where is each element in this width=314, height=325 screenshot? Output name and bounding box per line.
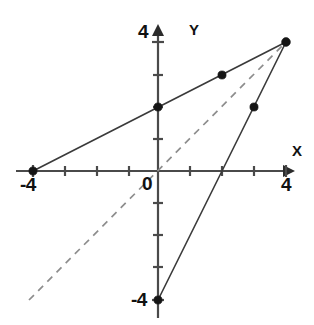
y-axis-max-tick-label: 4 [138,22,148,41]
y-axis-min-tick-label: -4 [131,290,147,309]
y-axis-arrow [152,24,164,36]
data-point-4-4 [282,38,291,47]
x-axis-max-tick-label: 4 [281,175,291,194]
data-point-2-3 [218,71,226,79]
graph-figure: Y X 4 4 -4 -4 0 [0,0,314,325]
origin-label: 0 [142,174,152,193]
x-axis-label: X [292,143,302,158]
y-axis-label: Y [189,22,199,37]
data-point-3-2 [250,103,258,111]
x-axis-min-tick-label: -4 [20,175,36,194]
data-point-0-2 [154,103,162,111]
data-point-0--4 [154,296,162,304]
plot-canvas [0,0,314,325]
